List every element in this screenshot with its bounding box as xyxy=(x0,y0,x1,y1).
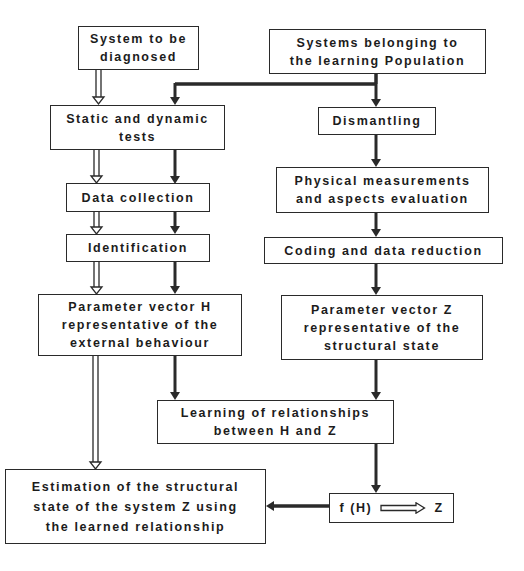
node-static-dynamic-tests: Static and dynamic tests xyxy=(50,105,225,150)
node-identification: Identification xyxy=(66,234,210,262)
node-function: f (H) Z xyxy=(329,493,454,523)
function-input-label: f (H) xyxy=(339,499,372,517)
hollow-arrow-diagnose-to-tests xyxy=(93,69,104,104)
node-coding-data-reduction: Coding and data reduction xyxy=(264,237,503,264)
node-learning-relationships: Learning of relationships between H and … xyxy=(157,400,394,444)
node-dismantling: Dismantling xyxy=(318,107,436,135)
node-parameter-vector-h: Parameter vector H representative of the… xyxy=(38,294,242,356)
node-physical-measurements: Physical measurements and aspects evalua… xyxy=(276,167,489,213)
implies-arrow-icon xyxy=(380,502,426,514)
node-parameter-vector-z: Parameter vector Z representative of the… xyxy=(281,295,483,360)
function-output-label: Z xyxy=(434,499,443,517)
node-learning-population: Systems belonging to the learning Popula… xyxy=(269,29,486,74)
flowchart-canvas: System to be diagnosed Systems belonging… xyxy=(0,0,524,571)
node-estimation: Estimation of the structural state of th… xyxy=(5,469,266,544)
node-system-to-diagnose: System to be diagnosed xyxy=(78,26,199,70)
node-data-collection: Data collection xyxy=(66,183,210,212)
